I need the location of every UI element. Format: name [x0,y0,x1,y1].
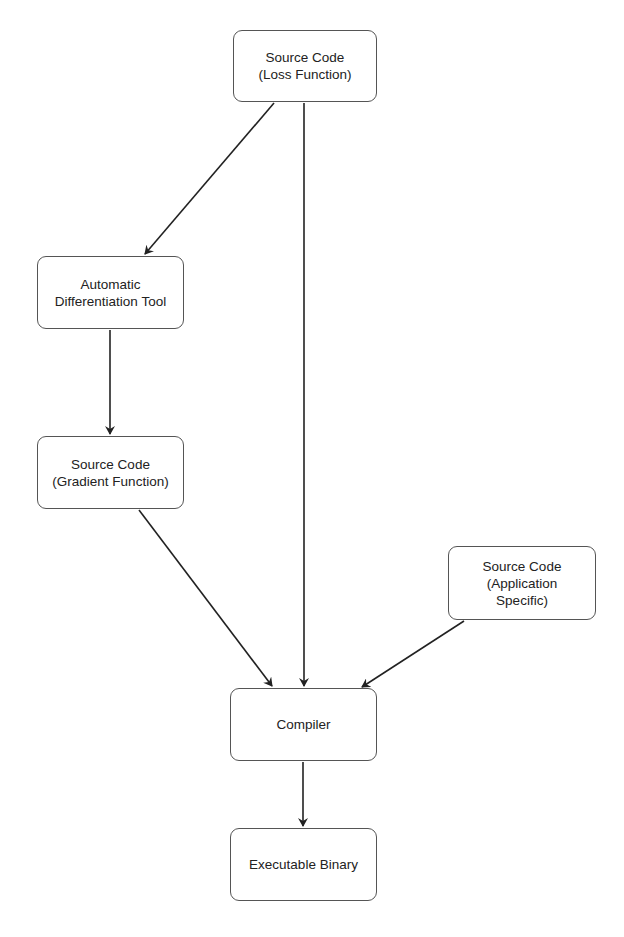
node-binary: Executable Binary [230,828,377,901]
flowchart-canvas: Source Code (Loss Function)Automatic Dif… [0,0,624,937]
node-adtool: Automatic Differentiation Tool [37,256,184,329]
node-compiler: Compiler [230,688,377,761]
arrow-loss-to-adtool [145,103,274,254]
node-loss: Source Code (Loss Function) [233,30,377,102]
node-app: Source Code (Application Specific) [448,546,596,620]
node-gradient: Source Code (Gradient Function) [37,436,184,509]
arrow-gradient-to-compiler [139,510,272,686]
arrow-app-to-compiler [362,621,464,687]
